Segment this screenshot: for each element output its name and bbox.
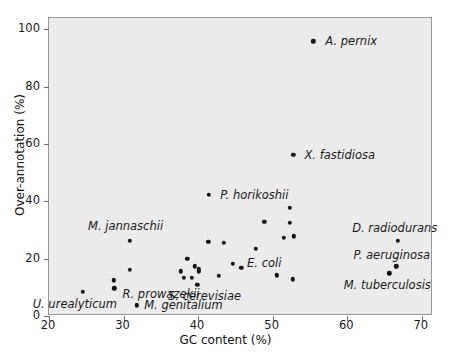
y-axis-title: Over-annotation (%) (13, 75, 27, 235)
data-point-label: M. tuberculosis (344, 278, 431, 292)
y-axis-tick-label: 40 (8, 193, 40, 207)
x-axis-title: GC content (%) (0, 333, 451, 347)
x-axis-tick-label: 60 (339, 318, 354, 332)
y-axis-tick-mark (44, 316, 49, 317)
x-axis-tick-label: 20 (41, 318, 56, 332)
plot-area (48, 17, 432, 315)
y-axis-tick-mark (44, 144, 49, 145)
y-axis-tick-mark (44, 259, 49, 260)
data-point-label: D. radiodurans (352, 221, 437, 235)
y-axis-tick-mark (44, 87, 49, 88)
data-point-label: P. aeruginosa (353, 248, 430, 262)
x-axis-tick-label: 30 (115, 318, 130, 332)
data-point-label: M. jannaschii (88, 219, 163, 233)
scatter-plot-figure: GC content (%) Over-annotation (%) 20304… (0, 0, 451, 357)
data-point-label: E. coli (247, 256, 281, 270)
y-axis-tick-label: 20 (8, 251, 40, 265)
x-axis-tick-label: 40 (190, 318, 205, 332)
data-point-label: M. genitalium (144, 298, 223, 312)
x-axis-tick-label: 70 (413, 318, 428, 332)
data-point-label: P. horikoshii (220, 188, 288, 202)
y-axis-tick-mark (44, 201, 49, 202)
y-axis-tick-mark (44, 29, 49, 30)
y-axis-tick-label: 60 (8, 136, 40, 150)
data-point-label: X. fastidiosa (304, 148, 375, 162)
x-axis-tick-label: 50 (264, 318, 279, 332)
y-axis-tick-label: 80 (8, 79, 40, 93)
data-point-label: U. urealyticum (33, 297, 117, 311)
y-axis-tick-label: 100 (8, 21, 40, 35)
data-point-label: A. pernix (325, 34, 377, 48)
